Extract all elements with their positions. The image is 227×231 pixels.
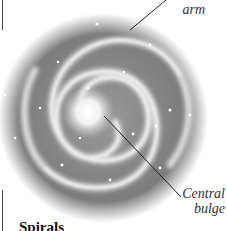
- label-arm-text: arm: [182, 2, 205, 17]
- label-bulge-line1: Central: [165, 186, 225, 201]
- label-arm: arm: [170, 2, 205, 17]
- central-bulge: [62, 86, 114, 138]
- label-bulge-line2: bulge: [165, 201, 225, 216]
- label-central-bulge: Central bulge: [165, 186, 225, 216]
- section-heading: Spirals: [19, 219, 64, 231]
